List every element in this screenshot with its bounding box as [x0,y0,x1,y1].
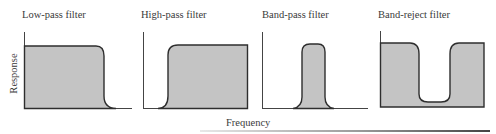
band-pass-curve [293,44,334,109]
band-pass-panel [262,32,368,109]
low-pass-panel [24,32,132,109]
bottom-rule [200,130,490,132]
filter-diagrams [0,0,496,134]
band-reject-curve [381,43,485,107]
high-pass-curve [158,45,248,109]
band-reject-panel [381,31,485,107]
high-pass-panel [143,32,248,109]
low-pass-curve [25,46,117,109]
